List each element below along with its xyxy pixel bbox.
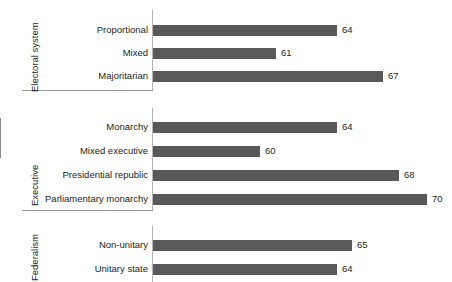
group-separator-electoral-executive — [22, 90, 153, 91]
bar-value-label: 65 — [357, 239, 368, 251]
bar — [153, 48, 276, 59]
bar-row: Unitary state 64 — [0, 264, 452, 276]
bar-value-label: 64 — [342, 263, 353, 275]
category-label: Majoritarian — [98, 70, 148, 82]
bar — [153, 122, 337, 133]
category-label: Mixed — [123, 47, 148, 59]
bar-row: Monarchy 64 — [0, 122, 452, 134]
bar-row: Parliamentary monarchy 70 — [0, 194, 452, 206]
category-label: Proportional — [97, 24, 148, 36]
bar — [153, 146, 260, 157]
bar-row: Mixed 61 — [0, 48, 452, 60]
bar-row: Presidential republic 68 — [0, 170, 452, 182]
category-label: Parliamentary monarchy — [45, 193, 148, 205]
bar — [153, 25, 337, 36]
group-separator-executive-federalism — [22, 210, 153, 211]
bar — [153, 71, 383, 82]
bar-value-label: 61 — [281, 47, 292, 59]
bar-row: Proportional 64 — [0, 25, 452, 37]
bar-value-label: 67 — [388, 70, 399, 82]
bar-value-label: 70 — [432, 193, 443, 205]
category-label: Non-unitary — [99, 239, 148, 251]
bar-value-label: 60 — [265, 145, 276, 157]
bar — [153, 170, 399, 181]
bar-value-label: 64 — [342, 121, 353, 133]
bar-row: Non-unitary 65 — [0, 240, 452, 252]
bar-row: Mixed executive 60 — [0, 146, 452, 158]
category-label: Monarchy — [106, 121, 148, 133]
category-label: Presidential republic — [62, 169, 148, 181]
bar-value-label: 64 — [342, 24, 353, 36]
bar-row: Majoritarian 67 — [0, 71, 452, 83]
bar — [153, 194, 427, 205]
bar — [153, 264, 337, 275]
grouped-bar-chart: Electoral system Executive Federalism Pr… — [0, 0, 452, 282]
category-label: Mixed executive — [80, 145, 148, 157]
bar-value-label: 68 — [404, 169, 415, 181]
bar — [153, 240, 352, 251]
category-label: Unitary state — [95, 263, 148, 275]
